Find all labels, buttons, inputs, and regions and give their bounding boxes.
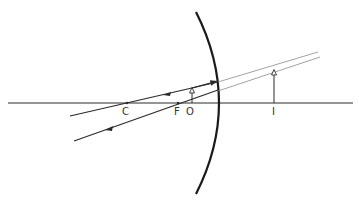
virtual-extension-line-2 (218, 57, 320, 91)
point-f-marker (177, 102, 179, 104)
label-f: F (174, 106, 180, 117)
point-c-marker (126, 102, 128, 104)
label-c: C (122, 106, 129, 117)
label-i: I (272, 106, 275, 117)
ray-direction-arrow-2 (105, 126, 113, 131)
virtual-extension-line-1 (218, 52, 318, 82)
reflected-ray-through-f (74, 90, 218, 141)
ray-diagram: C F O I (0, 0, 359, 206)
reflected-ray-through-c (70, 82, 218, 116)
label-o: O (186, 106, 194, 117)
image-arrow-head (272, 70, 277, 76)
